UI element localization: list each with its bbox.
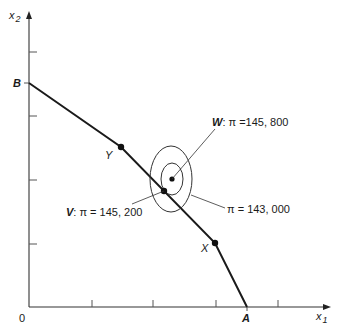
intercept-label-b: B <box>13 77 21 89</box>
x-axis <box>29 300 331 311</box>
v-annotation: V: π = 145, 200 <box>66 206 142 218</box>
contour-annotation: π = 143, 000 <box>227 203 290 215</box>
point-label-y: Y <box>105 149 113 161</box>
point-x <box>212 240 218 246</box>
point-label-x: X <box>200 242 209 254</box>
x-axis-label: x1 <box>315 310 328 325</box>
intercept-label-a: A <box>241 312 250 324</box>
y-axis-label: x2 <box>8 9 21 24</box>
w-annotation: W: π =145, 800 <box>212 116 288 128</box>
y-axis <box>24 11 37 307</box>
contour-leader-line <box>191 195 225 208</box>
origin-label: 0 <box>19 312 25 324</box>
profit-frontier-diagram: x2 x1 0 B A Y X W: π =145, 800 V: π = 14… <box>0 0 340 332</box>
w-leader-line <box>172 129 215 179</box>
v-leader-line <box>132 191 164 204</box>
point-y <box>118 144 124 150</box>
